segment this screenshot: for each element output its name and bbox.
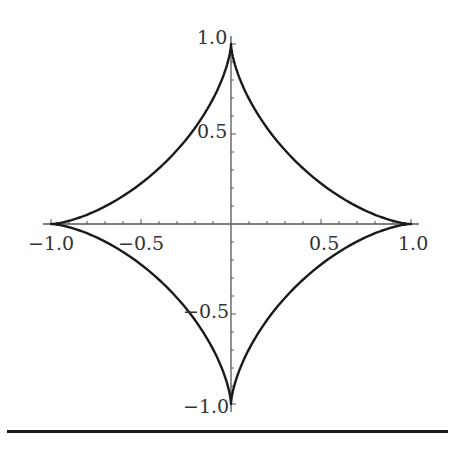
x-tick-label-1: 1.0 (398, 232, 428, 254)
tick-labels: −1.0 −0.5 0.5 1.0 1.0 0.5 −0.5 −1.0 (28, 26, 428, 417)
y-tick-label-neg1: −1.0 (183, 395, 229, 417)
y-tick-label-neg05: −0.5 (183, 300, 229, 322)
y-tick-label-1: 1.0 (197, 26, 227, 48)
x-tick-label-05: 0.5 (309, 232, 339, 254)
x-tick-label-neg1: −1.0 (28, 232, 74, 254)
y-tick-label-05: 0.5 (197, 120, 227, 142)
bottom-divider-rule (7, 430, 448, 433)
axes (43, 36, 419, 412)
x-tick-label-neg05: −0.5 (118, 232, 164, 254)
astroid-chart: −1.0 −0.5 0.5 1.0 1.0 0.5 −0.5 −1.0 (0, 0, 452, 450)
